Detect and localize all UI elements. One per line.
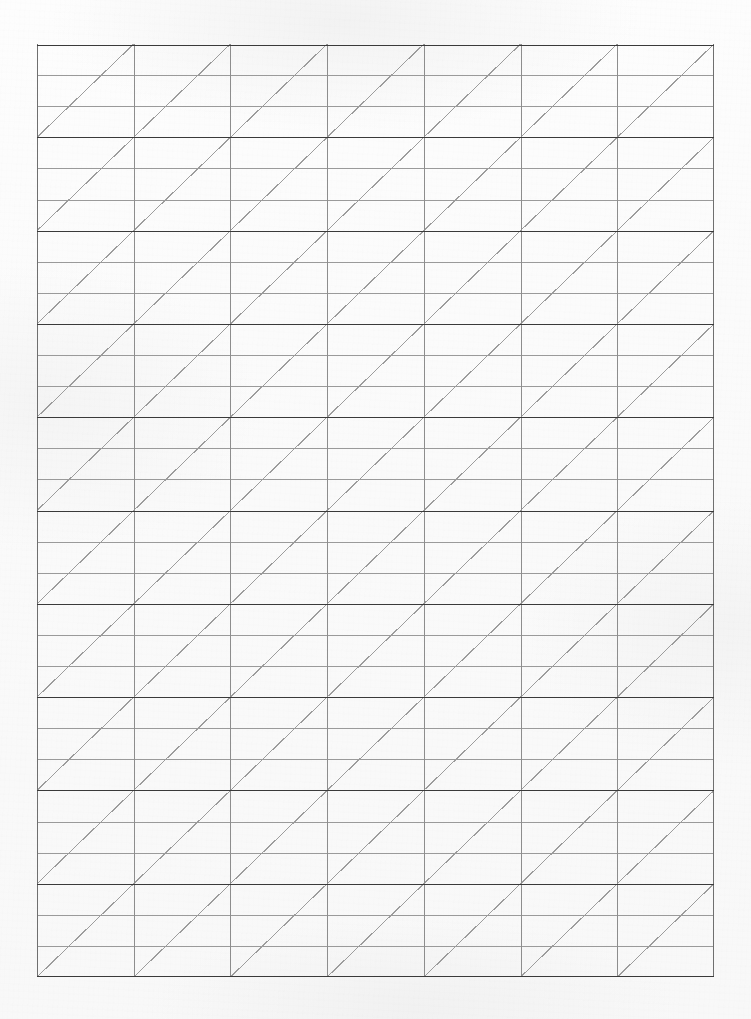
diagonal-line (521, 44, 618, 137)
diagonal-line (521, 417, 618, 510)
diagonal-line (134, 697, 231, 790)
diagonal-line (521, 604, 618, 697)
diagonal-line (327, 604, 424, 697)
diagonal-line (230, 324, 327, 417)
diagonal-line (327, 884, 424, 977)
diagonal-line (134, 604, 231, 697)
diagonal-line (617, 231, 714, 324)
diagonal-line (327, 231, 424, 324)
diagonal-line (37, 511, 134, 604)
diagonal-line (134, 417, 231, 510)
diagonal-line (37, 884, 134, 977)
diagonal-line (521, 511, 618, 604)
diagonal-line (424, 137, 521, 230)
diagonal-line (37, 137, 134, 230)
diagonal-line (37, 44, 134, 137)
diagonal-line (134, 231, 231, 324)
diagonal-line (230, 511, 327, 604)
diagonal-line (230, 231, 327, 324)
diagonal-line (617, 417, 714, 510)
diagonal-line (327, 137, 424, 230)
diagonal-line (424, 231, 521, 324)
diagonal-line (521, 790, 618, 883)
diagonal-line (617, 604, 714, 697)
diagonal-line (521, 137, 618, 230)
diagonal-line (230, 44, 327, 137)
diagonal-line (424, 511, 521, 604)
diagonal-line (134, 324, 231, 417)
diagonal-line (424, 884, 521, 977)
diagonal-line (617, 697, 714, 790)
diagonal-line (617, 790, 714, 883)
diagonal-line (424, 417, 521, 510)
paper-sheet (0, 0, 751, 1019)
diagonal-line (617, 884, 714, 977)
grid-lines-svg (37, 44, 714, 977)
diagonal-line (37, 697, 134, 790)
diagonal-line (521, 324, 618, 417)
diagonal-line (134, 884, 231, 977)
diagonal-line (617, 511, 714, 604)
diagonal-line (424, 790, 521, 883)
ruled-grid-area (37, 44, 714, 977)
diagonal-line (134, 511, 231, 604)
diagonal-line (327, 790, 424, 883)
diagonal-line (327, 511, 424, 604)
diagonal-line (37, 604, 134, 697)
diagonal-line (230, 417, 327, 510)
diagonal-line (230, 604, 327, 697)
diagonal-line (424, 697, 521, 790)
diagonal-line (617, 137, 714, 230)
diagonal-lines-group (37, 44, 714, 977)
diagonal-line (424, 324, 521, 417)
diagonal-line (327, 697, 424, 790)
diagonal-line (521, 884, 618, 977)
diagonal-line (617, 44, 714, 137)
diagonal-line (134, 790, 231, 883)
diagonal-line (521, 231, 618, 324)
diagonal-line (37, 790, 134, 883)
diagonal-line (327, 324, 424, 417)
diagonal-line (134, 44, 231, 137)
diagonal-line (37, 324, 134, 417)
diagonal-line (327, 44, 424, 137)
diagonal-line (37, 231, 134, 324)
diagonal-line (230, 884, 327, 977)
diagonal-line (617, 324, 714, 417)
diagonal-line (327, 417, 424, 510)
diagonal-line (230, 697, 327, 790)
diagonal-line (37, 417, 134, 510)
diagonal-line (424, 44, 521, 137)
diagonal-line (230, 790, 327, 883)
diagonal-line (134, 137, 231, 230)
diagonal-line (424, 604, 521, 697)
diagonal-line (230, 137, 327, 230)
diagonal-line (521, 697, 618, 790)
